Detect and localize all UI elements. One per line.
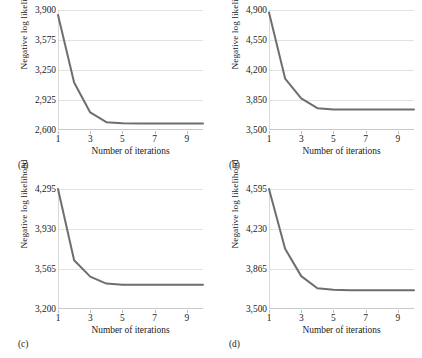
y-axis-ticklabel: 2,600 [35,125,56,135]
y-axis-ticklabel: 3,850 [246,95,267,105]
x-axis-ticklabel: 9 [185,134,190,145]
y-axis-ticklabel: 4,595 [246,184,267,194]
panel-d: Negative log likelihood 4,5954,2303,8653… [211,179,422,358]
y-axis-ticklabel: 3,200 [35,304,56,314]
x-axis-ticklabel: 3 [299,134,304,145]
x-axis-ticklabel: 3 [88,134,93,145]
panel-a: Negative log likelihood 3,9003,5753,2502… [0,0,211,179]
y-axis-ticklabel: 3,900 [35,5,56,15]
x-axis-ticks-a: 13579 [58,131,203,147]
x-axis-ticklabel: 3 [88,313,93,324]
x-axis-title-a: Number of iterations [58,146,203,156]
data-series-line [58,15,203,123]
y-axis-title-wrap-d: Negative log likelihood [213,189,227,309]
y-axis-ticklabel: 3,500 [246,304,267,314]
y-axis-ticklabel: 3,250 [35,65,56,75]
y-axis-ticklabel: 3,930 [35,224,56,234]
y-axis-ticklabels-c: 4,2953,9303,5653,200 [16,189,56,309]
y-axis-ticklabel: 3,565 [35,264,56,274]
x-axis-ticklabel: 5 [120,134,125,145]
data-series-line [58,189,203,285]
y-axis-title-wrap-a: Negative log likelihood [2,10,16,130]
y-axis-ticklabels-d: 4,5954,2303,8653,500 [227,189,267,309]
panel-b: Negative log likelihood 4,9004,5504,2003… [211,0,422,179]
plot-area-c [58,189,203,309]
x-axis-ticks-b: 13579 [269,131,414,147]
x-axis-title-b: Number of iterations [269,146,414,156]
x-axis-ticklabel: 5 [331,134,336,145]
x-axis-ticks-d: 13579 [269,310,414,326]
y-axis-ticklabel: 3,865 [246,264,267,274]
x-axis-ticklabel: 5 [120,313,125,324]
x-axis-ticklabel: 1 [267,313,272,324]
panel-caption-d: (d) [229,339,240,349]
y-axis-ticklabel: 3,575 [35,35,56,45]
x-axis-ticklabel: 1 [267,134,272,145]
x-axis-ticklabel: 1 [56,134,61,145]
x-axis-ticklabel: 7 [363,313,368,324]
x-axis-title-d: Number of iterations [269,325,414,335]
x-axis-ticklabel: 3 [299,313,304,324]
y-axis-ticklabels-b: 4,9004,5504,2003,8503,500 [227,10,267,130]
y-axis-ticklabel: 4,550 [246,35,267,45]
y-axis-ticklabel: 4,900 [246,5,267,15]
plot-area-a [58,10,203,130]
data-series-line [269,13,414,110]
y-axis-ticklabel: 4,230 [246,224,267,234]
x-axis-ticklabel: 7 [152,313,157,324]
figure-four-panel-convergence: Negative log likelihood 3,9003,5753,2502… [0,0,422,358]
y-axis-title-wrap-c: Negative log likelihood [2,189,16,309]
x-axis-title-c: Number of iterations [58,325,203,335]
x-axis-ticklabel: 9 [396,313,401,324]
plot-area-b [269,10,414,130]
x-axis-ticklabel: 9 [396,134,401,145]
x-axis-ticklabel: 1 [56,313,61,324]
y-axis-ticklabels-a: 3,9003,5753,2502,9252,600 [16,10,56,130]
y-axis-ticklabel: 4,295 [35,184,56,194]
curve-d [269,189,414,309]
curve-a [58,10,203,130]
data-series-line [269,189,414,290]
panel-caption-c: (c) [18,339,28,349]
panel-c: Negative log likelihood 4,2953,9303,5653… [0,179,211,358]
y-axis-title-wrap-b: Negative log likelihood [213,10,227,130]
x-axis-ticklabel: 7 [152,134,157,145]
x-axis-ticklabel: 9 [185,313,190,324]
y-axis-ticklabel: 2,925 [35,95,56,105]
curve-c [58,189,203,309]
y-axis-ticklabel: 3,500 [246,125,267,135]
plot-area-d [269,189,414,309]
x-axis-ticklabel: 7 [363,134,368,145]
x-axis-ticks-c: 13579 [58,310,203,326]
x-axis-ticklabel: 5 [331,313,336,324]
curve-b [269,10,414,130]
y-axis-ticklabel: 4,200 [246,65,267,75]
